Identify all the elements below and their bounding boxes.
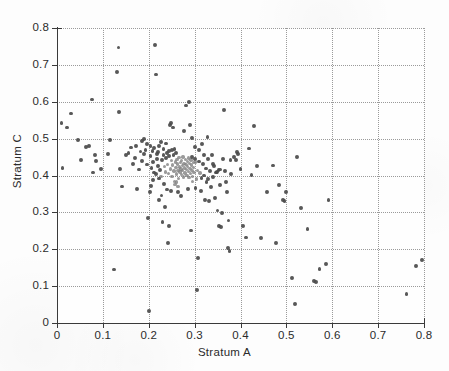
data-point [120,185,124,189]
data-point [211,162,215,166]
data-point [181,155,184,158]
data-point [212,164,216,168]
data-point [178,165,181,168]
y-axis-tick-label: 0 [9,316,49,328]
data-point [271,164,275,168]
data-point [215,170,219,174]
x-axis-tick-label: 0.1 [83,329,123,341]
data-point [151,149,155,153]
x-axis-tick [103,323,104,328]
x-axis-label: Stratum A [0,346,449,358]
x-axis-tick [149,323,150,328]
data-point [112,268,116,272]
data-point [156,164,160,168]
data-point [184,158,187,161]
data-point [87,144,91,148]
data-point [189,158,192,161]
data-point [157,198,161,202]
data-point [204,167,208,171]
data-point [188,167,191,170]
scatter-plot-figure: 00.10.20.30.40.50.60.70.8 00.10.20.30.40… [0,0,449,371]
data-point [252,124,256,128]
data-point [133,156,137,160]
y-axis-tick-label: 0.1 [9,279,49,291]
data-point [169,189,173,193]
data-point [217,168,221,172]
data-point [199,189,203,193]
x-axis-tick-label: 0.7 [358,329,398,341]
data-point [135,187,139,191]
plot-frame-right [424,28,425,323]
data-point [165,188,169,192]
data-point [187,156,190,159]
x-axis-tick-label: 0.4 [221,329,261,341]
data-point [93,153,97,157]
data-point [201,162,205,166]
data-point [206,157,210,161]
data-point [129,146,133,150]
data-point [187,176,190,179]
grid-line-horizontal [57,212,424,213]
data-point [214,171,218,175]
data-point [229,158,233,162]
y-axis-label: Stratum C [11,111,23,211]
y-axis-tick-label: 0.8 [9,21,49,33]
data-point [162,182,166,186]
data-point [186,160,189,163]
data-point [159,140,163,144]
data-point [186,187,190,191]
data-point [61,166,65,170]
data-point [265,190,269,194]
data-point [163,205,167,209]
grid-line-horizontal [57,286,424,287]
x-axis-tick [57,323,58,328]
data-point [200,142,204,146]
data-point [314,280,318,284]
data-point [166,241,170,245]
data-point [176,185,179,188]
data-point [232,155,236,159]
data-point [179,194,183,198]
data-point [244,236,248,240]
data-point [221,157,225,161]
x-axis-tick-label: 0.8 [404,329,444,341]
x-axis-tick-label: 0.3 [175,329,215,341]
data-point [208,169,212,173]
x-axis-tick [424,323,425,328]
data-point [405,292,409,296]
data-point [175,158,178,161]
data-point [170,148,174,152]
data-point [210,153,214,157]
plot-frame-top [57,28,424,29]
data-point [158,168,162,172]
data-point [173,147,177,151]
data-point [178,170,181,173]
y-axis-tick [52,176,57,177]
data-point [151,178,155,182]
data-point [277,183,281,187]
data-point [60,121,64,125]
data-point [106,152,110,156]
data-point [160,158,164,162]
y-axis-tick [52,249,57,250]
data-point [290,276,294,280]
data-point [170,159,173,162]
data-point [117,110,121,114]
data-point [117,46,121,50]
data-point [163,165,166,168]
data-point [183,171,186,174]
data-point [154,73,158,77]
data-point [324,262,328,266]
data-point [188,162,191,165]
data-point [162,147,166,151]
grid-line-horizontal [57,139,424,140]
data-point [127,151,131,155]
data-point [182,162,185,165]
data-point [187,170,190,173]
data-point [213,196,217,200]
data-point [174,160,177,163]
data-point [198,171,201,174]
data-point [207,199,211,203]
data-point [181,164,184,167]
data-point [65,126,69,130]
